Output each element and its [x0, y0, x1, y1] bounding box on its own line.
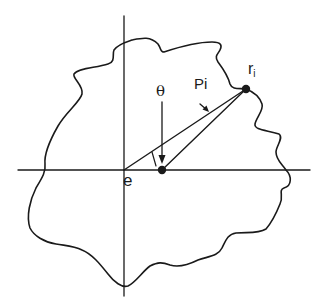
center-point-dot: [158, 166, 166, 174]
segment-label-pi: Pi: [194, 76, 207, 91]
angle-marker: [152, 152, 156, 166]
origin-label-e: e: [123, 172, 132, 189]
angle-label-theta: θ: [156, 84, 165, 99]
point-label-ri: ri: [248, 61, 256, 79]
point-label-ri-subscript: i: [253, 68, 255, 79]
contour-diagram: [0, 0, 326, 308]
theta-arrow-head: [159, 155, 166, 164]
segment-pi-line: [124, 89, 246, 170]
center-to-ri-line: [162, 89, 246, 170]
contour-point-ri-dot: [242, 85, 250, 93]
